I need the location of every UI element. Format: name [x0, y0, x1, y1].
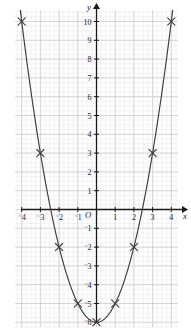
- x-tick-label: ⁻2: [55, 213, 63, 222]
- y-tick-label: 1: [88, 187, 92, 196]
- y-tick-label: 9: [88, 36, 92, 45]
- x-tick-label: 4: [169, 213, 173, 222]
- y-tick-label: 4: [88, 130, 92, 139]
- y-tick-label: 5: [88, 112, 92, 121]
- y-tick-label: 3: [88, 149, 92, 158]
- x-tick-label: 2: [132, 213, 136, 222]
- y-axis-label: y: [86, 2, 91, 12]
- y-tick-label: 10: [84, 18, 92, 27]
- y-tick-label: ⁻1: [84, 224, 92, 233]
- y-tick-label: 2: [88, 168, 92, 177]
- y-tick-label: 8: [88, 55, 92, 64]
- x-tick-labels: ⁻4⁻3⁻2⁻11234: [18, 213, 174, 222]
- y-tick-label: ⁻4: [84, 281, 92, 290]
- x-tick-label: ⁻1: [74, 213, 82, 222]
- x-tick-label: 1: [113, 213, 117, 222]
- x-tick-label: ⁻4: [18, 213, 26, 222]
- origin-label: O: [85, 210, 91, 220]
- coordinate-plane-svg: ⁻4⁻3⁻2⁻11234 ⁻6⁻5⁻4⁻3⁻2⁻112345678910 O x…: [0, 0, 191, 328]
- x-axis-label: x: [182, 211, 187, 221]
- y-tick-label: ⁻2: [84, 243, 92, 252]
- y-tick-label: 7: [88, 74, 92, 83]
- x-tick-label: 3: [151, 213, 155, 222]
- y-tick-label: ⁻3: [84, 262, 92, 271]
- y-tick-label: 6: [88, 93, 92, 102]
- quadratic-graph-figure: ⁻4⁻3⁻2⁻11234 ⁻6⁻5⁻4⁻3⁻2⁻112345678910 O x…: [0, 0, 191, 328]
- x-tick-label: ⁻3: [36, 213, 44, 222]
- y-tick-label: ⁻5: [84, 300, 92, 309]
- y-axis-arrowhead: [93, 3, 100, 9]
